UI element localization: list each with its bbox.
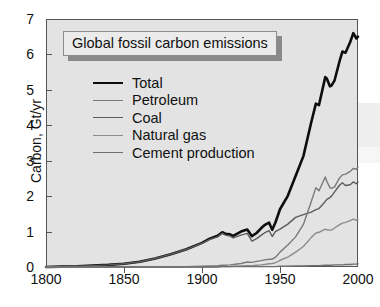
x-tick-label: 1800 xyxy=(16,272,76,286)
chart-legend: TotalPetroleumCoalNatural gasCement prod… xyxy=(93,74,255,162)
x-tick-mark xyxy=(124,267,125,273)
legend-item-coal: Coal xyxy=(93,109,255,127)
title-shadow-bottom xyxy=(68,56,282,61)
x-tick-label: 2000 xyxy=(328,272,380,286)
y-tick-label: 1 xyxy=(0,225,34,239)
chart-figure: 76543210 18001850190019502000 Carbon, Gt… xyxy=(0,0,380,307)
legend-swatch xyxy=(93,152,123,153)
legend-swatch xyxy=(93,117,123,118)
y-tick-mark xyxy=(46,90,52,91)
legend-item-total: Total xyxy=(93,74,255,92)
legend-label: Cement production xyxy=(132,146,255,161)
right-edge-band-lower xyxy=(358,147,380,163)
y-tick-mark xyxy=(46,232,52,233)
legend-item-natural-gas: Natural gas xyxy=(93,127,255,145)
legend-swatch xyxy=(93,100,123,101)
y-tick-label: 6 xyxy=(0,47,34,61)
y-tick-mark xyxy=(46,161,52,162)
x-tick-mark xyxy=(202,267,203,273)
chart-title: Global fossil carbon emissions xyxy=(63,31,277,56)
series-line-coal xyxy=(46,182,358,267)
legend-label: Coal xyxy=(132,111,162,126)
legend-item-petroleum: Petroleum xyxy=(93,92,255,110)
legend-item-cement-production: Cement production xyxy=(93,144,255,162)
x-tick-label: 1850 xyxy=(94,272,154,286)
y-tick-mark xyxy=(46,196,52,197)
y-tick-label: 7 xyxy=(0,12,34,26)
y-axis-title: Carbon, Gt/yr xyxy=(28,61,44,221)
x-tick-label: 1900 xyxy=(172,272,232,286)
chart-title-box: Global fossil carbon emissions xyxy=(63,31,277,56)
legend-label: Petroleum xyxy=(132,93,198,108)
right-edge-band xyxy=(358,103,380,147)
legend-swatch xyxy=(93,82,123,84)
legend-label: Natural gas xyxy=(132,128,206,143)
y-tick-mark xyxy=(46,125,52,126)
y-tick-mark xyxy=(46,54,52,55)
x-tick-mark xyxy=(280,267,281,273)
series-line-petroleum xyxy=(46,167,358,267)
legend-label: Total xyxy=(132,76,163,91)
x-tick-label: 1950 xyxy=(250,272,310,286)
legend-swatch xyxy=(93,135,123,136)
